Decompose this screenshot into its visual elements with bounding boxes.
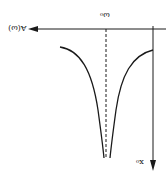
center-frequency-label: ω₀ <box>100 11 110 19</box>
vertical-axis-label: A(ω) <box>8 24 27 32</box>
curve-left-branch <box>60 47 104 158</box>
curve-right-branch <box>110 50 153 158</box>
vertical-axis-arrowhead <box>150 160 156 171</box>
horizontal-axis-arrowhead <box>28 26 38 32</box>
horizontal-axis-label: x₀ <box>136 158 144 166</box>
